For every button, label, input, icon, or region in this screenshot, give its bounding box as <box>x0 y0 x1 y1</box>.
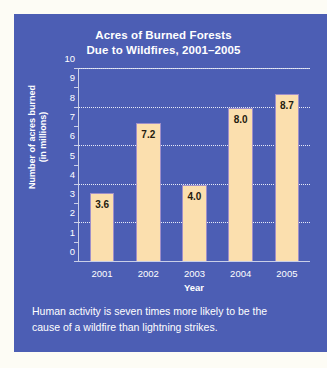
figure-root: Acres of Burned Forests Due to Wildfires… <box>0 0 327 368</box>
y-axis-title: Number of acres burned (in millions) <box>27 77 49 197</box>
y-tick-9 <box>74 87 79 88</box>
bar-2004[interactable]: 8.0 <box>228 108 253 262</box>
bar-group-2005[interactable]: 8.72005 <box>275 69 300 262</box>
plot-area: 012345678910 3.620017.220024.020038.0200… <box>78 68 310 262</box>
x-tick-label-2005: 2005 <box>266 268 309 279</box>
bar-group-2002[interactable]: 7.22002 <box>136 69 161 262</box>
x-tick-label-2003: 2003 <box>173 268 216 279</box>
x-axis-line <box>79 261 310 263</box>
bar-value-2002: 7.2 <box>137 129 160 140</box>
chart-title: Acres of Burned Forests Due to Wildfires… <box>14 28 313 58</box>
chart-panel: Acres of Burned Forests Due to Wildfires… <box>14 14 327 352</box>
y-tick-4 <box>74 184 79 185</box>
bar-value-2005: 8.7 <box>276 100 299 111</box>
frame-top <box>0 0 327 14</box>
bar-group-2003[interactable]: 4.02003 <box>182 69 207 262</box>
y-tick-label-1: 1 <box>70 228 75 238</box>
x-tick-label-2002: 2002 <box>127 268 170 279</box>
y-tick-label-3: 3 <box>70 189 75 199</box>
bar-group-2004[interactable]: 8.02004 <box>228 69 253 262</box>
y-tick-label-0: 0 <box>70 247 75 257</box>
bar-2002[interactable]: 7.2 <box>136 123 161 262</box>
bar-group-2001[interactable]: 3.62001 <box>90 69 115 262</box>
x-tick-label-2001: 2001 <box>81 268 124 279</box>
bar-value-2003: 4.0 <box>183 191 206 202</box>
y-tick-10 <box>74 68 79 69</box>
y-tick-label-4: 4 <box>70 170 75 180</box>
bar-value-2001: 3.6 <box>91 199 114 210</box>
plot-inner: 012345678910 3.620017.220024.020038.0200… <box>79 69 310 262</box>
bar-2003[interactable]: 4.0 <box>182 185 207 262</box>
y-tick-1 <box>74 242 79 243</box>
y-tick-label-10: 10 <box>64 54 75 64</box>
frame-left <box>0 0 14 368</box>
bar-2001[interactable]: 3.6 <box>90 193 115 262</box>
y-tick-label-7: 7 <box>70 112 75 122</box>
y-axis-title-line-1: Number of acres burned <box>27 77 38 197</box>
y-tick-label-5: 5 <box>70 151 75 161</box>
x-axis-title: Year <box>78 282 310 293</box>
y-tick-3 <box>74 203 79 204</box>
y-tick-label-8: 8 <box>70 93 75 103</box>
y-tick-6 <box>74 145 79 146</box>
chart-caption: Human activity is seven times more likel… <box>32 304 294 335</box>
y-tick-label-9: 9 <box>70 73 75 83</box>
y-tick-5 <box>74 165 79 166</box>
bar-value-2004: 8.0 <box>229 114 252 125</box>
y-tick-7 <box>74 126 79 127</box>
x-tick-label-2004: 2004 <box>219 268 262 279</box>
chart-title-line-2: Due to Wildfires, 2001–2005 <box>14 43 313 58</box>
y-tick-2 <box>74 222 79 223</box>
bar-2005[interactable]: 8.7 <box>275 94 300 262</box>
frame-bottom <box>0 352 327 368</box>
chart-title-line-1: Acres of Burned Forests <box>14 28 313 43</box>
y-tick-8 <box>74 107 79 108</box>
y-tick-label-6: 6 <box>70 131 75 141</box>
y-axis-title-line-2: (in millions) <box>38 77 49 197</box>
y-tick-label-2: 2 <box>70 208 75 218</box>
